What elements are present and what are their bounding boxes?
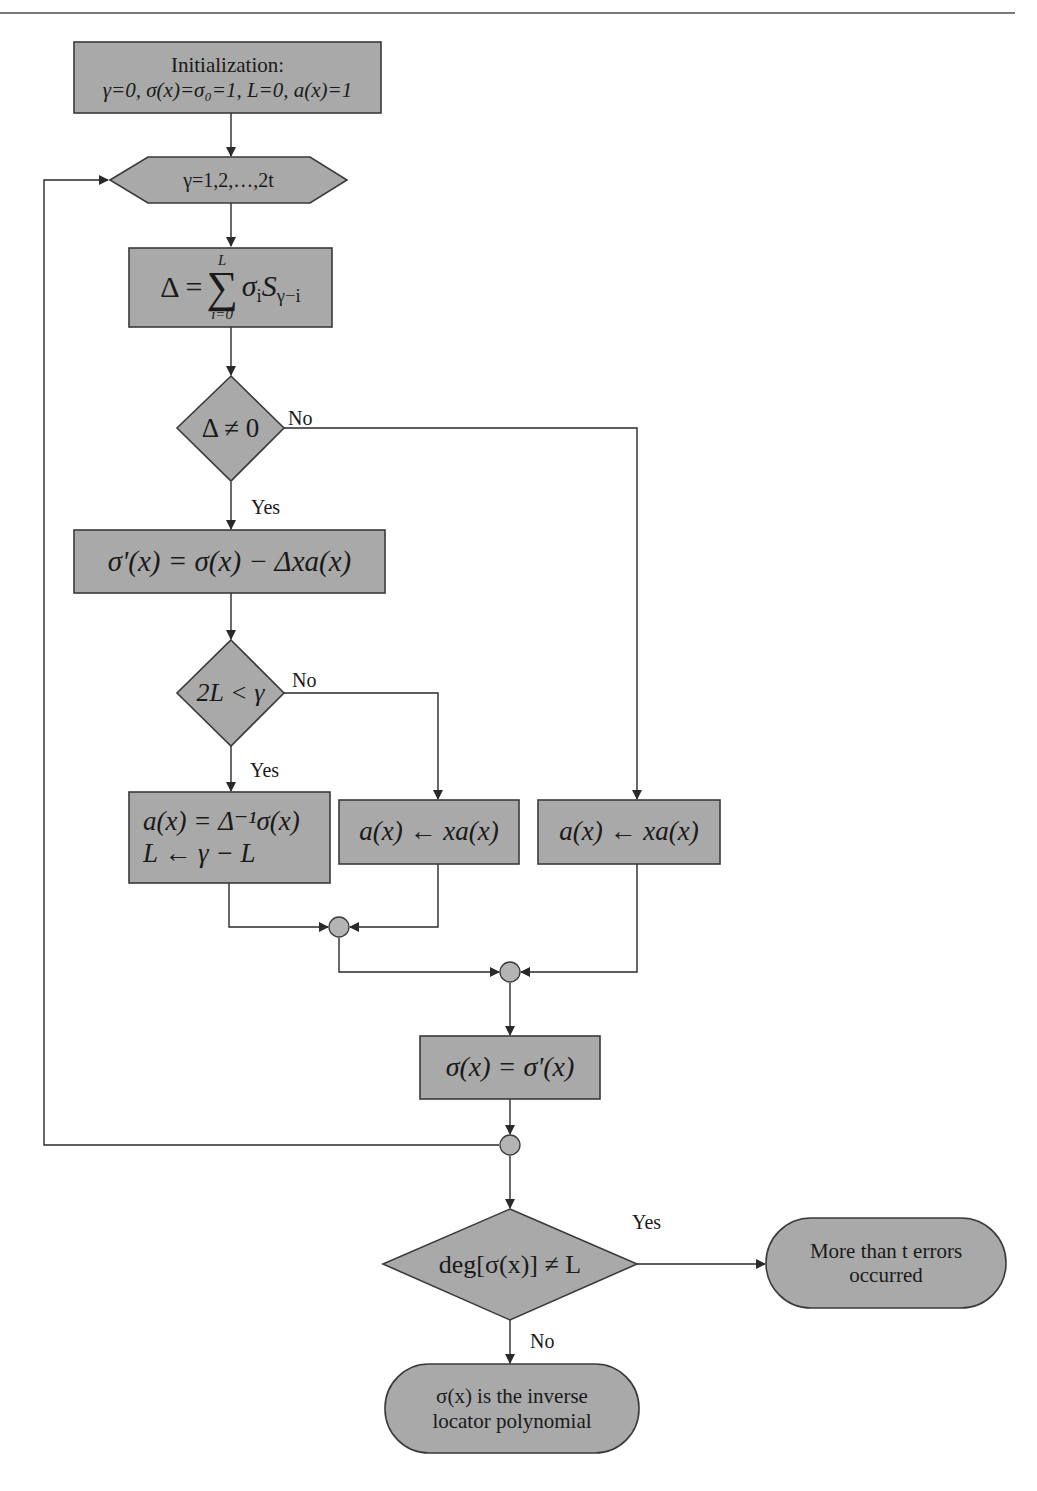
- check-degree-label: deg[σ(x)] ≠ L: [383, 1209, 637, 1320]
- loop-range: γ=1,2,…,2t: [183, 169, 274, 192]
- fail-line-2: occurred: [849, 1263, 922, 1287]
- check-delta-condition: Δ ≠ 0: [202, 413, 260, 444]
- edge-label-length-no: No: [292, 669, 316, 692]
- edge-shift2-to-junction: [521, 864, 637, 972]
- update-sigma-formula: σ'(x) = σ(x) − Δxa(x): [108, 545, 351, 578]
- init-values: γ=0, σ(x)=σ₀=1, L=0, a(x)=1: [103, 78, 352, 102]
- sum-operator: L ∑ i=0: [206, 253, 237, 323]
- check-length-label: 2L < γ: [177, 640, 284, 746]
- edge-delta-no: [284, 428, 637, 799]
- edge-reset-to-junction: [229, 883, 328, 927]
- update-length-formula: L ← γ − L: [143, 838, 255, 869]
- check-delta-label: Δ ≠ 0: [177, 376, 284, 481]
- sum-lower-limit: i=0: [211, 307, 233, 322]
- shift-a-2-formula: a(x) ← xa(x): [559, 816, 698, 847]
- shift-a-2-label: a(x) ← xa(x): [538, 800, 720, 864]
- fail-label: More than t errors occurred: [766, 1218, 1006, 1308]
- loop-label: γ=1,2,…,2t: [110, 157, 347, 203]
- update-a-formula: a(x) = Δ⁻¹σ(x): [143, 806, 300, 837]
- success-line-1: σ(x) is the inverse: [436, 1384, 588, 1408]
- edge-label-delta-no: No: [288, 407, 312, 430]
- commit-sigma-label: σ(x) = σ'(x): [420, 1036, 600, 1099]
- fail-line-1: More than t errors: [810, 1239, 962, 1263]
- init-title: Initialization:: [171, 53, 284, 77]
- check-length-condition: 2L < γ: [197, 678, 265, 708]
- update-a-reset-label: a(x) = Δ⁻¹σ(x) L ← γ − L: [129, 792, 330, 883]
- edge-junction1-to-junction2: [339, 938, 499, 972]
- junction-2: [500, 962, 520, 982]
- discrepancy-label: Δ = L ∑ i=0 σiSγ−i: [129, 248, 332, 327]
- sigma-summation-icon: ∑: [206, 268, 237, 308]
- shift-a-1-label: a(x) ← xa(x): [339, 800, 519, 864]
- check-degree-condition: deg[σ(x)] ≠ L: [439, 1250, 581, 1280]
- discrepancy-lhs: Δ =: [160, 270, 202, 305]
- junction-3: [500, 1135, 520, 1155]
- edge-label-length-yes: Yes: [250, 759, 279, 782]
- discrepancy-body: σiSγ−i: [242, 269, 301, 306]
- success-line-2: locator polynomial: [432, 1409, 591, 1433]
- edge-length-no: [284, 693, 438, 799]
- init-label: Initialization: γ=0, σ(x)=σ₀=1, L=0, a(x…: [74, 42, 381, 113]
- edge-label-delta-yes: Yes: [251, 496, 280, 519]
- junction-1: [329, 917, 349, 937]
- edge-label-degree-yes: Yes: [632, 1211, 661, 1234]
- shift-a-1-formula: a(x) ← xa(x): [359, 816, 498, 847]
- commit-sigma-formula: σ(x) = σ'(x): [446, 1051, 575, 1083]
- update-sigma-label: σ'(x) = σ(x) − Δxa(x): [74, 530, 385, 593]
- edge-label-degree-no: No: [530, 1330, 554, 1353]
- edge-shift1-to-junction: [350, 864, 438, 927]
- success-label: σ(x) is the inverse locator polynomial: [385, 1364, 639, 1453]
